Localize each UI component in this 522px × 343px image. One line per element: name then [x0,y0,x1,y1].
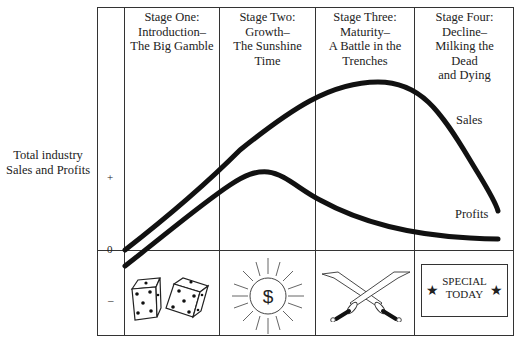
special-today-sign: ★ SPECIAL TODAY ★ [421,264,508,317]
sun-dollar-icon: $ [230,256,306,336]
star-icon-right: ★ [490,282,503,299]
profits-curve [125,172,498,266]
dice-icon [128,275,218,325]
svg-text:$: $ [263,286,274,307]
crossed-swords-icon [320,270,412,322]
sales-label: Sales [456,113,482,128]
profits-label: Profits [455,207,488,222]
